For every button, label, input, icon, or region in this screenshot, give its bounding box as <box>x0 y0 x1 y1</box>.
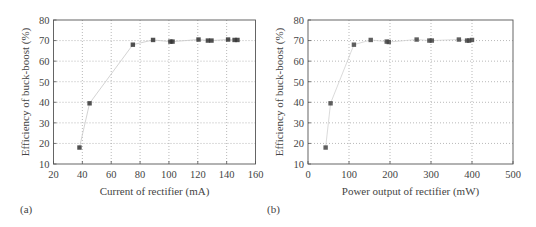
x-axis-label: Power output of rectifier (mW) <box>342 185 480 198</box>
data-point <box>323 145 327 149</box>
svg-text:100: 100 <box>161 169 177 180</box>
data-point <box>369 38 373 42</box>
svg-text:60: 60 <box>106 169 117 180</box>
data-point <box>196 37 200 41</box>
svg-text:100: 100 <box>341 169 357 180</box>
svg-text:40: 40 <box>77 169 88 180</box>
plot-frame <box>308 20 513 164</box>
svg-text:140: 140 <box>219 169 235 180</box>
chart-b-svg: 01002003004005001020304050607080Power ou… <box>268 0 536 227</box>
chart-a-svg: 204060801001201401601020304050607080Curr… <box>0 0 268 227</box>
svg-text:80: 80 <box>135 169 146 180</box>
svg-text:200: 200 <box>382 169 398 180</box>
data-point <box>414 37 418 41</box>
grid-lines <box>308 20 513 164</box>
svg-text:20: 20 <box>48 169 59 180</box>
svg-text:0: 0 <box>305 169 310 180</box>
svg-text:300: 300 <box>423 169 439 180</box>
panel-label-a: (a) <box>20 203 32 215</box>
svg-text:40: 40 <box>39 97 50 108</box>
svg-text:50: 50 <box>39 77 50 88</box>
svg-text:50: 50 <box>294 77 305 88</box>
data-point <box>87 101 91 105</box>
y-axis-label: Efficiency of buck-boost (%) <box>19 27 32 156</box>
data-markers <box>323 37 474 149</box>
svg-text:60: 60 <box>39 56 50 67</box>
svg-text:80: 80 <box>294 15 305 26</box>
data-point <box>226 37 230 41</box>
svg-text:20: 20 <box>294 138 305 149</box>
svg-text:70: 70 <box>294 35 305 46</box>
svg-text:80: 80 <box>39 15 50 26</box>
data-point <box>470 38 474 42</box>
data-point <box>131 42 135 46</box>
data-point <box>151 38 155 42</box>
svg-text:20: 20 <box>39 138 50 149</box>
data-point <box>170 39 174 43</box>
svg-text:160: 160 <box>248 169 264 180</box>
svg-text:10: 10 <box>294 159 305 170</box>
svg-text:400: 400 <box>464 169 480 180</box>
data-point <box>235 38 239 42</box>
data-point <box>457 37 461 41</box>
data-point <box>328 101 332 105</box>
series-line <box>326 40 472 148</box>
chart-panel-a: 204060801001201401601020304050607080Curr… <box>0 0 268 227</box>
series-line <box>79 40 237 148</box>
chart-panel-b: 01002003004005001020304050607080Power ou… <box>268 0 536 227</box>
svg-text:30: 30 <box>294 118 305 129</box>
data-point <box>77 145 81 149</box>
data-point <box>387 40 391 44</box>
data-point <box>209 38 213 42</box>
svg-text:30: 30 <box>39 118 50 129</box>
svg-text:10: 10 <box>39 159 50 170</box>
svg-text:70: 70 <box>39 35 50 46</box>
data-markers <box>77 37 239 149</box>
svg-text:60: 60 <box>294 56 305 67</box>
svg-text:120: 120 <box>190 169 206 180</box>
y-axis-label: Efficiency of buck-boost (%) <box>273 27 286 156</box>
svg-text:500: 500 <box>505 169 521 180</box>
data-point <box>430 38 434 42</box>
x-axis-label: Current of rectifier (mA) <box>100 185 210 198</box>
panel-label-b: (b) <box>267 203 280 215</box>
svg-text:40: 40 <box>294 97 305 108</box>
data-point <box>352 42 356 46</box>
